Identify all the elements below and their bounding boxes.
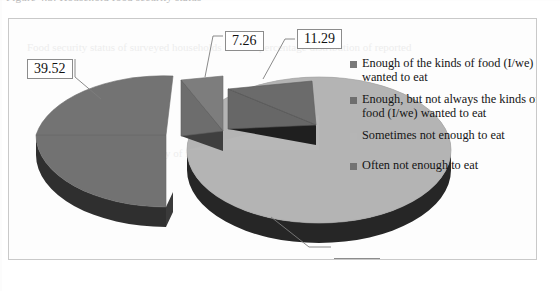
legend-swatch-icon: [350, 97, 357, 104]
legend-swatch-icon: [350, 163, 357, 170]
leader-line-726: [205, 36, 223, 77]
figure-caption: Figure 4.3: Household food security stat…: [6, 0, 201, 3]
chart-frame: Food security status of surveyed househo…: [8, 18, 537, 260]
data-label-1129: 11.29: [297, 29, 342, 49]
pie-slice-enough-kinds[interactable]: [181, 76, 223, 151]
legend-label: Enough of the kinds of food (I/we) wante…: [362, 57, 537, 84]
legend-item-enough-kinds[interactable]: Enough of the kinds of food (I/we) wante…: [350, 57, 537, 84]
leader-line-1129: [263, 39, 295, 79]
pie-slice-often-not-enough[interactable]: [36, 76, 173, 227]
chart-legend: Enough of the kinds of food (I/we) wante…: [350, 57, 537, 182]
data-label-726: 7.26: [225, 31, 264, 51]
legend-label: Enough, but not always the kinds of food…: [362, 93, 537, 120]
data-label-3952: 39.52: [27, 59, 73, 79]
legend-label: Often not enough to eat: [362, 159, 478, 173]
legend-swatch-icon: [350, 133, 357, 140]
legend-item-enough-not-always[interactable]: Enough, but not always the kinds of food…: [350, 93, 537, 120]
legend-label: Sometimes not enough to eat: [362, 129, 505, 143]
legend-item-sometimes-not-enough[interactable]: Sometimes not enough to eat: [350, 129, 537, 143]
legend-swatch-icon: [350, 61, 357, 68]
legend-item-often-not-enough[interactable]: Often not enough to eat: [350, 159, 537, 173]
figure-caption-strip: Figure 4.3: Household food security stat…: [0, 0, 560, 14]
data-label-4194: 41.94: [334, 258, 380, 260]
